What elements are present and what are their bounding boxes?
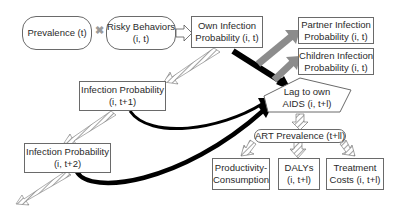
node-children-infection-line1: Children Infection xyxy=(299,50,373,62)
node-lag-aids-line2: AIDS (i, t+l) xyxy=(272,98,342,110)
node-prevalence: Prevalence (t) xyxy=(22,16,92,50)
node-prevalence-label: Prevalence (t) xyxy=(27,27,86,39)
node-treatment-costs-line1: Treatment xyxy=(334,162,377,174)
node-risky-behaviors-line1: Risky Behaviors xyxy=(107,21,175,33)
node-treatment-costs-line2: Costs (i, t+l) xyxy=(330,174,381,186)
arrow-lag-to-art xyxy=(292,114,308,130)
node-risky-behaviors-line2: (i, t) xyxy=(133,33,149,45)
node-dalys: DALYs (i, t+l) xyxy=(278,158,320,190)
node-partner-infection: Partner Infection Probability (i, t) xyxy=(298,17,374,44)
arrow-risky-to-own-infection xyxy=(176,25,192,41)
multiply-icon: ✖ xyxy=(95,24,104,37)
node-partner-infection-line2: Probability (i, t) xyxy=(304,31,367,43)
node-lag-aids-line1: Lag to own xyxy=(272,86,342,98)
node-dalys-line1: DALYs xyxy=(285,162,314,174)
node-lag-aids: Lag to own AIDS (i, t+l) xyxy=(272,86,342,110)
node-own-infection: Own Infection Probability (i, t) xyxy=(191,16,263,48)
node-art-prevalence: ART Prevalence (t+ll) xyxy=(254,129,346,143)
node-infection-t1-line1: Infection Probability xyxy=(81,84,164,96)
node-infection-t1: Infection Probability (i, t+1) xyxy=(79,81,166,111)
arrow-infection-t2-onward xyxy=(16,171,71,205)
node-productivity: Productivity- Consumption xyxy=(212,158,270,190)
node-infection-t2-line1: Infection Probability xyxy=(26,146,109,158)
node-productivity-line1: Productivity- xyxy=(215,162,267,174)
node-partner-infection-line1: Partner Infection xyxy=(301,19,371,31)
arrow-art-to-treatment xyxy=(340,140,355,156)
arrow-own-to-infection-t1 xyxy=(164,48,220,84)
arrow-art-to-productivity xyxy=(241,140,256,156)
node-own-infection-line2: Probability (i, t) xyxy=(195,32,258,44)
arrow-to-children-infection xyxy=(274,56,300,80)
node-risky-behaviors: Risky Behaviors (i, t) xyxy=(106,16,176,50)
arrow-infection-t1-to-t2 xyxy=(64,111,116,145)
node-dalys-line2: (i, t+l) xyxy=(287,174,311,186)
arrow-art-to-dalys xyxy=(290,141,306,158)
node-children-infection: Children Infection Probability (i, t) xyxy=(298,48,374,75)
node-infection-t2: Infection Probability (i, t+2) xyxy=(24,143,111,173)
node-infection-t1-line2: (i, t+1) xyxy=(109,96,136,108)
node-treatment-costs: Treatment Costs (i, t+l) xyxy=(326,158,384,190)
node-children-infection-line2: Probability (i, t) xyxy=(304,62,367,74)
node-infection-t2-line2: (i, t+2) xyxy=(54,158,81,170)
node-own-infection-line1: Own Infection xyxy=(198,20,256,32)
node-productivity-line2: Consumption xyxy=(213,174,269,186)
node-art-prevalence-label: ART Prevalence (t+ll) xyxy=(255,130,345,142)
